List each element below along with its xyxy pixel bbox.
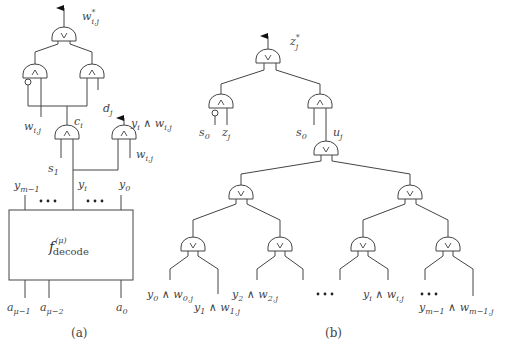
circuit-figure: w*i,j dj wi,j ci <box>0 0 511 353</box>
label-s0-right: s0 <box>296 126 307 141</box>
negation-bubble-icon <box>25 79 31 85</box>
label-s-1: s1 <box>48 162 59 177</box>
leaf-label-1: y1 ∧ w1,j <box>193 301 240 316</box>
label-y-0: y0 <box>118 178 130 193</box>
label-a-0: a0 <box>116 301 128 316</box>
label-u-j: uj <box>333 126 343 141</box>
or-level1-left <box>229 185 253 199</box>
or-level2-3 <box>351 237 375 251</box>
caption-a: (a) <box>71 326 88 340</box>
ellipsis-dots-leaves-1 <box>317 293 334 296</box>
output-yi-and-wij: yi ∧ wi,j <box>130 117 172 132</box>
label-d-j: dj <box>103 102 113 117</box>
label-a-mu-2: aμ−2 <box>40 301 64 316</box>
or-gate-zj <box>256 36 280 63</box>
or-tree-root <box>314 141 338 155</box>
label-s0-left: s0 <box>199 126 210 141</box>
output-w-star: w*i,j <box>82 8 100 26</box>
leaf-label-2: y2 ∧ w2,j <box>231 288 278 303</box>
and-gate-left <box>23 64 47 117</box>
label-w-ij-left: wi,j <box>24 120 42 135</box>
ellipsis-dots-leaves-2 <box>421 293 438 296</box>
panel-b: z*j s0 zj s0 uj <box>146 33 494 340</box>
label-y-i: yi <box>77 178 87 193</box>
negation-bubble-icon <box>212 110 218 116</box>
leaf-label-m-1: ym−1 ∧ wm−1,j <box>418 301 494 316</box>
or-level2-1 <box>181 237 205 251</box>
and-gate-s0-uj <box>308 94 332 144</box>
output-z-star: z*j <box>289 33 300 51</box>
and-gate-s0-zj <box>209 94 233 125</box>
and-gate-right <box>80 64 104 106</box>
label-w-ij-right: wi,j <box>136 148 154 163</box>
label-a-mu-1: aμ−1 <box>7 301 31 316</box>
label-z-j: zj <box>221 126 231 141</box>
label-y-m-1: ym−1 <box>13 179 40 194</box>
caption-b: (b) <box>325 326 342 340</box>
or-level1-right <box>398 185 422 199</box>
decoder-box <box>9 210 133 280</box>
or-level2-4 <box>436 237 460 251</box>
or-gate-top <box>52 8 76 41</box>
leaf-label-0: y0 ∧ w0,j <box>146 288 193 303</box>
leaf-label-i: yi ∧ wi,j <box>362 288 404 303</box>
ellipsis-dots-right <box>87 200 104 203</box>
or-level2-2 <box>268 237 292 251</box>
ellipsis-dots-left <box>40 200 57 203</box>
